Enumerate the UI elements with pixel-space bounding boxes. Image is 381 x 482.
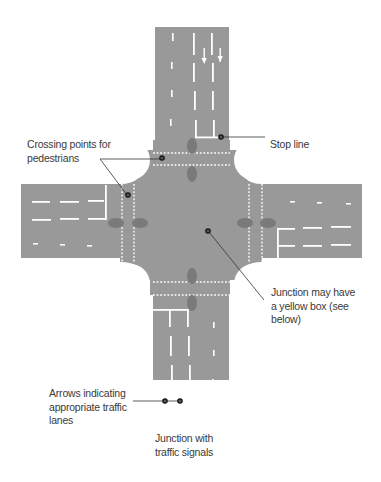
caption-line: traffic signals <box>155 446 213 460</box>
label-line: Crossing points for <box>27 138 111 152</box>
label-line: pedestrians <box>27 152 111 166</box>
diagram-caption: Junction with traffic signals <box>155 432 213 459</box>
caption-line: Junction with <box>155 432 213 446</box>
label-crossing-points: Crossing points for pedestrians <box>27 138 111 165</box>
label-line: Arrows indicating <box>49 387 127 401</box>
label-line: appropriate traffic <box>49 401 127 415</box>
label-arrows: Arrows indicating appropriate traffic la… <box>49 387 127 428</box>
label-line: Stop line <box>270 138 309 152</box>
label-yellow-box: Junction may have a yellow box (see belo… <box>271 286 355 327</box>
label-line: a yellow box (see <box>271 300 355 314</box>
label-line: below) <box>271 313 355 327</box>
label-line: lanes <box>49 414 127 428</box>
label-stop-line: Stop line <box>270 138 309 152</box>
label-line: Junction may have <box>271 286 355 300</box>
